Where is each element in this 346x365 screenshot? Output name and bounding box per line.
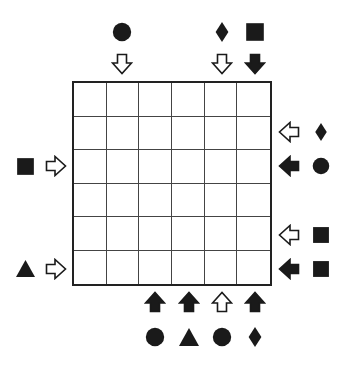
bottom-clue-arrow-hollow-up-icon bbox=[211, 291, 233, 313]
grid-cell-r0-c5[interactable] bbox=[237, 83, 270, 117]
right-clue-square-icon bbox=[312, 260, 330, 278]
grid-cell-r1-c0[interactable] bbox=[74, 117, 107, 151]
grid-cell-r5-c4[interactable] bbox=[205, 251, 238, 285]
grid-cell-r4-c5[interactable] bbox=[237, 217, 270, 251]
right-clue-arrow-hollow-left-icon bbox=[278, 121, 300, 143]
grid-cell-r5-c5[interactable] bbox=[237, 251, 270, 285]
grid-cell-r5-c2[interactable] bbox=[139, 251, 172, 285]
grid-cell-r1-c1[interactable] bbox=[107, 117, 140, 151]
puzzle-grid bbox=[72, 81, 272, 286]
grid-cell-r2-c4[interactable] bbox=[205, 150, 238, 184]
bottom-clue-circle-icon bbox=[145, 327, 165, 347]
bottom-clue-triangle-icon bbox=[179, 327, 199, 347]
grid-cell-r4-c3[interactable] bbox=[172, 217, 205, 251]
bottom-clue-arrow-filled-up-icon bbox=[244, 291, 266, 313]
grid-cell-r0-c3[interactable] bbox=[172, 83, 205, 117]
grid-cell-r1-c5[interactable] bbox=[237, 117, 270, 151]
grid-cell-r5-c0[interactable] bbox=[74, 251, 107, 285]
right-clue-diamond-icon bbox=[312, 123, 330, 141]
grid-cell-r4-c1[interactable] bbox=[107, 217, 140, 251]
bottom-clue-arrow-filled-up-icon bbox=[144, 291, 166, 313]
grid-cell-r1-c2[interactable] bbox=[139, 117, 172, 151]
grid-cell-r2-c3[interactable] bbox=[172, 150, 205, 184]
bottom-clue-arrow-filled-up-icon bbox=[178, 291, 200, 313]
right-clue-arrow-filled-left-icon bbox=[278, 155, 300, 177]
puzzle-board bbox=[0, 0, 346, 365]
top-clue-arrow-filled-down-icon bbox=[244, 53, 266, 75]
top-clue-arrow-hollow-down-icon bbox=[111, 53, 133, 75]
top-clue-circle-icon bbox=[112, 22, 132, 42]
grid-cell-r1-c4[interactable] bbox=[205, 117, 238, 151]
left-clue-arrow-hollow-right-icon bbox=[45, 258, 67, 280]
grid-cell-r5-c3[interactable] bbox=[172, 251, 205, 285]
grid-cell-r0-c2[interactable] bbox=[139, 83, 172, 117]
grid-cell-r2-c0[interactable] bbox=[74, 150, 107, 184]
grid-cell-r3-c1[interactable] bbox=[107, 184, 140, 218]
grid-cell-r2-c5[interactable] bbox=[237, 150, 270, 184]
grid-cell-r0-c4[interactable] bbox=[205, 83, 238, 117]
right-clue-square-icon bbox=[312, 226, 330, 244]
bottom-clue-diamond-icon bbox=[245, 327, 265, 347]
grid-cell-r3-c0[interactable] bbox=[74, 184, 107, 218]
bottom-clue-circle-icon bbox=[212, 327, 232, 347]
grid-cell-r3-c5[interactable] bbox=[237, 184, 270, 218]
top-clue-arrow-hollow-down-icon bbox=[211, 53, 233, 75]
grid-cell-r3-c2[interactable] bbox=[139, 184, 172, 218]
grid-cell-r2-c2[interactable] bbox=[139, 150, 172, 184]
right-clue-arrow-filled-left-icon bbox=[278, 258, 300, 280]
grid-cell-r2-c1[interactable] bbox=[107, 150, 140, 184]
top-clue-square-icon bbox=[245, 22, 265, 42]
left-clue-square-icon bbox=[16, 157, 35, 176]
grid-cell-r4-c2[interactable] bbox=[139, 217, 172, 251]
grid-cell-r0-c0[interactable] bbox=[74, 83, 107, 117]
right-clue-arrow-hollow-left-icon bbox=[278, 224, 300, 246]
top-clue-diamond-icon bbox=[212, 22, 232, 42]
right-clue-circle-icon bbox=[312, 157, 330, 175]
left-clue-triangle-icon bbox=[16, 259, 35, 278]
grid-cell-r5-c1[interactable] bbox=[107, 251, 140, 285]
grid-cell-r3-c4[interactable] bbox=[205, 184, 238, 218]
grid-cell-r4-c0[interactable] bbox=[74, 217, 107, 251]
grid-cell-r0-c1[interactable] bbox=[107, 83, 140, 117]
left-clue-arrow-hollow-right-icon bbox=[45, 155, 67, 177]
grid-cell-r3-c3[interactable] bbox=[172, 184, 205, 218]
grid-cell-r1-c3[interactable] bbox=[172, 117, 205, 151]
grid-cell-r4-c4[interactable] bbox=[205, 217, 238, 251]
